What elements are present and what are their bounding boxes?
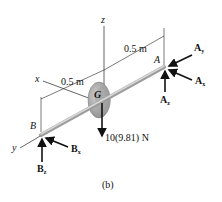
force-Bz-label: Bz — [37, 164, 46, 177]
force-Ax-label: Ax — [195, 76, 205, 89]
force-Bx-arrow — [46, 138, 68, 147]
y-axis — [20, 135, 42, 148]
z-axis-label: z — [101, 15, 105, 25]
force-Bx-label: Bx — [71, 144, 81, 157]
point-A-label: A — [154, 55, 160, 65]
dimension-G-to-A: 0.5 m — [124, 44, 147, 54]
diagram-graphics — [0, 0, 222, 202]
y-axis-label: y — [12, 143, 16, 153]
weight-label: 10(9.81) N — [105, 133, 149, 143]
point-G-label: G — [94, 90, 101, 100]
figure-caption: (b) — [102, 180, 114, 190]
force-Ay-label: Ay — [194, 43, 204, 56]
dimension-G-to-B: 0.5 m — [61, 77, 84, 87]
force-Ax-arrow — [169, 70, 192, 80]
force-Ay-arrow — [169, 55, 192, 66]
point-B-label: B — [30, 121, 36, 131]
free-body-diagram: z x y A B G 0.5 m 0.5 m 10(9.81) N Ay Ax… — [0, 0, 222, 202]
force-Az-label: Az — [160, 95, 170, 108]
x-axis-label: x — [35, 74, 39, 84]
